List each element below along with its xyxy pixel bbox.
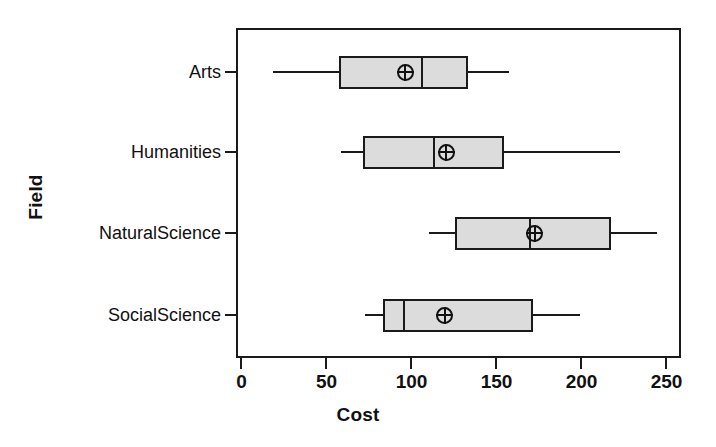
mean-marker-icon (436, 307, 453, 324)
iqr-box (383, 299, 533, 332)
upper-whisker (533, 314, 581, 316)
median-line (403, 299, 405, 332)
y-axis-title: Field (25, 149, 47, 245)
mean-cross-vertical-icon (444, 307, 446, 324)
boxplot-figure: ArtsHumanitiesNaturalScienceSocialScienc… (0, 0, 716, 447)
lower-whisker (365, 314, 384, 316)
boxplot-socialscience (0, 0, 716, 447)
x-axis-title: Cost (0, 404, 716, 426)
